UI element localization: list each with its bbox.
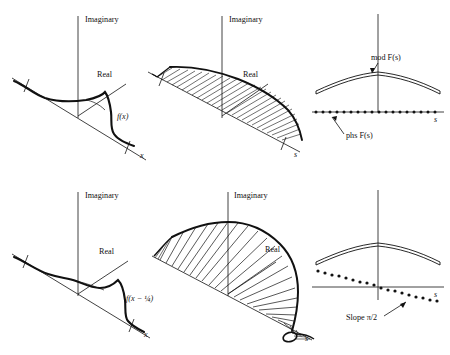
mod-annotation-label: mod F(s) [371,53,401,62]
real-axis-label: Real [265,245,281,254]
real-axis [78,261,128,294]
twist-generators [160,222,298,334]
imaginary-axis-label: Imaginary [229,15,264,24]
surface-edge-curve [170,67,302,140]
curve-label-prefix: f(x − [126,294,144,303]
panel-bottom-left: Imaginary Real x f(x − ¼) [12,191,153,339]
phase-dots [316,269,438,302]
curve-label-fx-shifted: f(x − ¼) [126,294,153,303]
real-axis-label: Real [99,247,115,256]
x-axis-label: x [139,151,144,160]
curve-label-fx: f(x) [117,112,129,121]
imaginary-axis-label: Imaginary [85,191,120,200]
real-axis-label: Real [243,70,259,79]
s-axis-label: s [434,290,437,299]
panel-top-left: Imaginary Real x f(x) [12,15,146,160]
surface-left-tail [152,74,157,77]
panel-top-right: s mod F(s) phs F(s) [312,14,444,140]
figure-svg: Imaginary Real x f(x) [0,0,450,355]
panel-bottom-middle: Imaginary Real s [152,191,314,343]
hatching-lines [157,68,301,140]
s-axis [148,72,300,152]
imaginary-axis-label: Imaginary [234,191,269,200]
twist-end-loop [282,331,298,344]
x-axis-label: x [143,330,148,339]
s-axis [152,256,312,340]
s-axis-label: s [305,334,308,343]
real-axis [222,84,268,116]
phase-annotation-label: phs F(s) [346,131,373,140]
s-axis-label: s [434,115,437,124]
figure-container: Imaginary Real x f(x) [0,0,450,355]
phase-annotation-leader [332,117,344,134]
slope-annotation-arrowhead [400,302,406,308]
panel-top-middle: Imaginary Real s [148,15,302,159]
surface-left-cap [157,67,170,77]
real-axis-label: Real [97,70,113,79]
s-axis-label: s [294,150,297,159]
imaginary-axis-label: Imaginary [85,15,120,24]
curve-label-suffix: ) [149,294,153,303]
slope-annotation-label: Slope π/2 [346,313,377,322]
panel-bottom-right: s Slope π/2 [312,190,444,322]
